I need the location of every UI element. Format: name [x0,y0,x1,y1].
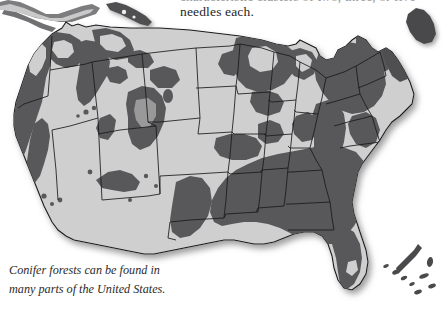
island-specks [383,244,437,295]
book-page: characteristic clusters of two, three, o… [0,0,444,312]
figure-caption: Conifer forests can be found in many par… [9,261,224,299]
map-fragment-top-right [406,8,436,44]
caption-line-2: many parts of the United States. [9,280,224,299]
caption-line-1: Conifer forests can be found in [9,261,224,280]
map-fragment-top-center [106,2,152,26]
